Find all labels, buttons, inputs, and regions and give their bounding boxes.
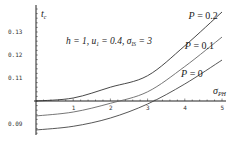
y-tick-label: 0.09 (8, 120, 23, 127)
parameter-annotation: h = 1, u1 = 0.4, σIS = 3 (66, 36, 152, 47)
y-tick-labels: 0.090.110.120.13 (8, 28, 23, 127)
y-tick-label: 0.11 (8, 74, 23, 81)
y-tick-label: 0.12 (8, 51, 23, 58)
x-tick-label: 3 (146, 104, 150, 111)
x-tick-label: 4 (183, 104, 187, 111)
x-tick-label: 2 (109, 104, 113, 111)
x-tick-label: 5 (221, 104, 225, 111)
curve-label: P = 0.2 (188, 10, 218, 21)
chart: 0.090.110.120.13 12345 P = 0.2P = 0.1P =… (0, 0, 249, 141)
y-tick-label: 0.13 (8, 28, 23, 35)
curve-labels: P = 0.2P = 0.1P = 0 (180, 10, 218, 79)
x-axis-label: σPH (213, 85, 227, 97)
curve-label: P = 0 (180, 68, 203, 79)
curve-P0-2 (36, 12, 222, 101)
x-tick-label: 1 (72, 104, 76, 111)
y-axis-label: tc (41, 8, 47, 20)
curve-label: P = 0.1 (184, 40, 214, 51)
